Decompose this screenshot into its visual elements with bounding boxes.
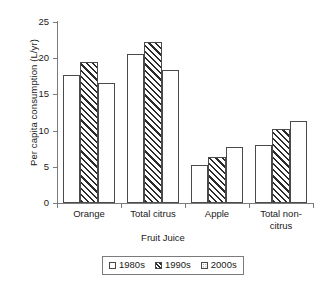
x-axis-tick [57, 203, 58, 208]
y-axis-tick-label: 15 [38, 88, 49, 99]
legend-label: 2000s [211, 259, 237, 271]
bar [80, 62, 98, 203]
y-axis-tick: 25 [53, 22, 57, 23]
x-axis-category-label: Apple [185, 208, 249, 220]
y-axis-tick-label: 0 [44, 197, 49, 208]
bar [63, 75, 81, 203]
bar [162, 70, 180, 203]
x-axis-category-label: Total non-citrus [249, 208, 313, 231]
legend-swatch-icon [201, 262, 208, 269]
legend-item: 2000s [201, 259, 237, 271]
x-axis-category-label: Total citrus [121, 208, 185, 220]
legend-item: 1980s [109, 259, 145, 271]
x-axis-category-label-line: Apple [185, 208, 249, 220]
bar [208, 157, 226, 203]
y-axis-tick: 5 [53, 167, 57, 168]
legend-item: 1990s [155, 259, 191, 271]
legend-swatch-icon [155, 262, 162, 269]
x-axis-category-label: Orange [57, 208, 121, 220]
chart-legend: 1980s1990s2000s [102, 256, 244, 275]
y-axis-title: Per capita consumption (L/yr) [28, 8, 39, 198]
y-axis-tick: 10 [53, 131, 57, 132]
bar-chart: Per capita consumption (L/yr) 0510152025… [0, 0, 326, 281]
y-axis-tick-label: 5 [44, 161, 49, 172]
bar [272, 129, 290, 203]
legend-label: 1990s [165, 259, 191, 271]
x-axis-category-label-line: Total non- [249, 208, 313, 220]
legend-label: 1980s [119, 259, 145, 271]
y-axis-tick-label: 25 [38, 16, 49, 27]
x-axis-category-label-line: citrus [249, 220, 313, 232]
y-axis-tick: 20 [53, 58, 57, 59]
plot-area: 0510152025 [57, 22, 313, 203]
y-axis-tick-label: 20 [38, 52, 49, 63]
legend-swatch-icon [109, 262, 116, 269]
x-axis-category-label-line: Orange [57, 208, 121, 220]
x-axis-title: Fruit Juice [0, 232, 326, 243]
y-axis-tick-label: 10 [38, 125, 49, 136]
bar [255, 145, 273, 203]
bar [144, 42, 162, 203]
y-axis-tick: 15 [53, 94, 57, 95]
x-axis-category-label-line: Total citrus [121, 208, 185, 220]
bar [226, 147, 244, 203]
bar [127, 54, 145, 203]
bar [98, 83, 116, 203]
bar [290, 121, 308, 203]
bar [191, 165, 209, 203]
x-axis-tick [313, 203, 314, 208]
